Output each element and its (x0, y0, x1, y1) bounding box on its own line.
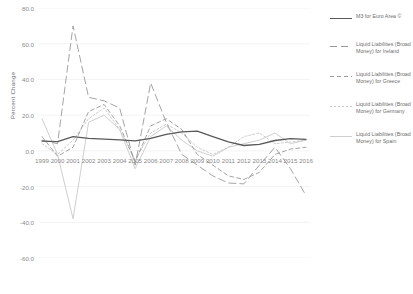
x-axis-tick-label: 2005 (128, 157, 142, 164)
x-axis-tick-label: 2009 (190, 157, 204, 164)
plot-area (38, 8, 310, 258)
y-axis-tick-label: -40.0 (0, 219, 34, 226)
x-axis-tick-label: 2004 (113, 157, 127, 164)
y-axis-tick-group: 80.060.040.020.00.0-20.0-40.0-60.0 (0, 0, 34, 294)
x-axis-tick-label: 2001 (66, 157, 80, 164)
x-axis-tick-label: 2002 (82, 157, 96, 164)
x-axis-tick-label: 2000 (51, 157, 65, 164)
chart-container: Percent Change 80.060.040.020.00.0-20.0-… (0, 0, 413, 294)
legend-item[interactable]: Liquid Liabilities (Broad Money) for Ire… (330, 42, 413, 70)
x-axis-tick-label: 2015 (284, 157, 298, 164)
series-line (42, 108, 306, 160)
y-axis-tick-label: -60.0 (0, 255, 34, 262)
legend-label: M3 for Euro Area © (356, 13, 413, 20)
x-axis-tick-label: 2016 (299, 157, 313, 164)
legend-color-swatch (330, 76, 352, 77)
x-axis-tick-label: 2011 (222, 157, 235, 164)
y-axis-tick-label: 0.0 (0, 147, 34, 154)
x-axis-tick-label: 2010 (206, 157, 220, 164)
x-axis-tick-label: 2006 (144, 157, 158, 164)
legend-item[interactable]: Liquid Liabilities (Broad Money) for Spa… (330, 132, 413, 160)
y-axis-tick-label: 40.0 (0, 76, 34, 83)
y-axis-tick-label: 80.0 (0, 5, 34, 12)
y-axis-tick-label: 20.0 (0, 112, 34, 119)
x-axis-tick-label: 2013 (253, 157, 267, 164)
series-line (42, 115, 306, 219)
legend-item[interactable]: Liquid Liabilities (Broad Money) for Ger… (330, 102, 413, 130)
x-axis-tick-label: 2007 (159, 157, 173, 164)
y-axis-tick-label: 60.0 (0, 40, 34, 47)
series-line (42, 26, 306, 196)
y-axis-tick-label: -20.0 (0, 183, 34, 190)
x-axis-tick-label: 2012 (237, 157, 251, 164)
x-axis-tick-label: 2008 (175, 157, 189, 164)
x-axis-tick-label: 1999 (35, 157, 49, 164)
legend-label: Liquid Liabilities (Broad Money) for Spa… (356, 131, 413, 144)
chart-svg (38, 8, 310, 258)
legend-item[interactable]: M3 for Euro Area © (330, 14, 413, 42)
legend-label: Liquid Liabilities (Broad Money) for Gre… (356, 71, 413, 84)
x-axis-tick-label: 2003 (97, 157, 111, 164)
legend-color-swatch (330, 18, 352, 19)
legend-color-swatch (330, 46, 352, 47)
legend-label: Liquid Liabilities (Broad Money) for Ger… (356, 101, 413, 114)
legend-item[interactable]: Liquid Liabilities (Broad Money) for Gre… (330, 72, 413, 100)
legend-label: Liquid Liabilities (Broad Money) for Ire… (356, 41, 413, 54)
legend-color-swatch (330, 106, 352, 107)
x-axis-tick-label: 2014 (268, 157, 282, 164)
legend-color-swatch (330, 136, 352, 137)
